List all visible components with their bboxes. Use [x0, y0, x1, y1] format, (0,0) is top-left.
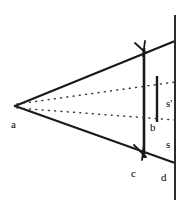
upper-ray-line — [15, 41, 175, 106]
lower-ray-line — [15, 106, 175, 163]
label-d: d — [161, 172, 167, 183]
label-s-prime: s' — [166, 98, 172, 109]
label-b: b — [150, 122, 156, 133]
label-s: s — [166, 139, 170, 150]
figure-canvas: a b c d s s' — [0, 0, 187, 212]
ray-diagram-svg — [0, 0, 187, 212]
dotted-ray-upper — [17, 82, 175, 104]
label-a: a — [11, 119, 16, 130]
label-c: c — [131, 168, 136, 179]
